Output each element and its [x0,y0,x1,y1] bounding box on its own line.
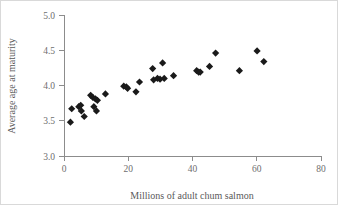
chart-canvas: 3.03.54.04.55.0 020406080 Millions of ad… [1,1,338,205]
data-point-marker [170,72,177,79]
x-tick-label: 40 [188,164,198,174]
data-point-marker [102,90,109,97]
y-tick-label: 4.0 [43,81,55,91]
y-tick-label: 4.5 [43,46,55,56]
x-axis-ticks: 020406080 [62,156,326,174]
y-tick-label: 3.5 [43,116,55,126]
y-tick-label: 5.0 [43,11,55,21]
y-axis-ticks: 3.03.54.04.55.0 [43,11,64,162]
x-tick-label: 60 [252,164,262,174]
x-axis-title: Millions of adult chum salmon [130,190,253,201]
data-point-marker [149,65,156,72]
scatter-plot-figure: 3.03.54.04.55.0 020406080 Millions of ad… [0,0,338,205]
data-point-marker [159,59,166,66]
data-point-marker [68,105,75,112]
data-point-marker [132,88,139,95]
x-tick-label: 0 [62,164,67,174]
x-tick-label: 20 [124,164,134,174]
data-point-marker [236,67,243,74]
data-point-marker [67,119,74,126]
data-point-marker [260,58,267,65]
data-point-marker [206,63,213,70]
data-point-marker [212,49,219,56]
data-points-group [67,47,268,125]
data-point-marker [253,47,260,54]
y-tick-label: 3.0 [43,152,55,162]
x-tick-label: 80 [316,164,326,174]
data-point-marker [136,78,143,85]
axes-group [64,15,321,156]
y-axis-title: Average age at maturity [6,38,17,134]
